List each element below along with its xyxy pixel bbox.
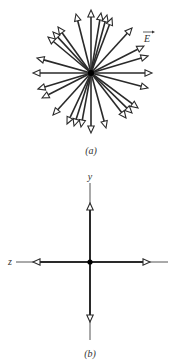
field-vector-right bbox=[90, 259, 150, 265]
arrowhead-icon bbox=[88, 126, 94, 133]
arrowhead-icon bbox=[73, 118, 79, 126]
arrowhead-icon bbox=[140, 55, 148, 61]
vector-shaft bbox=[70, 73, 91, 118]
arrowhead-icon bbox=[101, 120, 107, 128]
field-vector-down bbox=[87, 262, 93, 322]
arrowhead-icon bbox=[38, 84, 46, 90]
field-vector-up bbox=[87, 203, 93, 262]
arrowhead-icon bbox=[136, 46, 144, 52]
point-charge bbox=[88, 70, 94, 76]
arrowhead-icon bbox=[88, 10, 94, 17]
arrowhead-icon bbox=[58, 27, 65, 35]
figure-b-axes-field bbox=[16, 183, 168, 340]
arrowhead-icon bbox=[37, 57, 45, 63]
arrowhead-icon bbox=[67, 116, 73, 124]
arrowhead-icon bbox=[75, 14, 81, 22]
arrowhead-icon bbox=[33, 70, 40, 76]
arrowhead-icon bbox=[87, 203, 93, 210]
figure-b-caption: (b) bbox=[84, 348, 96, 360]
field-vector-4 bbox=[91, 18, 112, 73]
figure-a-caption: (a) bbox=[85, 145, 97, 157]
arrowhead-icon bbox=[140, 83, 148, 89]
electric-field-figure: E (a) y z (b) bbox=[0, 0, 184, 364]
y-axis-label: y bbox=[87, 171, 93, 182]
arrowhead-icon bbox=[143, 259, 150, 265]
arrowhead-icon bbox=[79, 120, 85, 127]
e-vector-label: E bbox=[143, 33, 150, 44]
z-axis-label: z bbox=[7, 256, 12, 267]
arrowhead-icon bbox=[87, 315, 93, 322]
field-vector-left bbox=[33, 259, 90, 265]
figure-a-radial-field bbox=[33, 10, 152, 133]
arrowhead-icon bbox=[97, 13, 103, 20]
e-vector-overarrow-head bbox=[152, 31, 155, 34]
arrowhead-icon bbox=[42, 92, 50, 98]
arrowhead-icon bbox=[33, 259, 40, 265]
field-vector-17 bbox=[67, 73, 91, 124]
point-charge bbox=[87, 259, 92, 264]
arrowhead-icon bbox=[145, 70, 152, 76]
